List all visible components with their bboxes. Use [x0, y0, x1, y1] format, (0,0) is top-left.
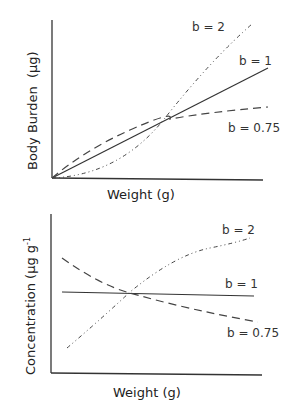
concentration-chart: b = 2 b = 1 b = 0.75 Weight (g) Concentr…: [23, 214, 279, 400]
label-b1: b = 1: [225, 277, 258, 291]
x-axis-label: Weight (g): [107, 187, 175, 202]
x-axis-label: Weight (g): [113, 385, 181, 400]
y-axis-label: Concentration (µg g-1: [23, 237, 38, 375]
line-b1: [62, 292, 254, 296]
label-b075: b = 0.75: [228, 121, 280, 135]
line-b075: [52, 107, 268, 178]
body-burden-chart: b = 2 b = 1 b = 0.75 Weight (g) Body Bur…: [25, 20, 280, 202]
y-axis-label: Body Burden (µg): [25, 51, 40, 170]
label-b075: b = 0.75: [227, 326, 279, 340]
figure: b = 2 b = 1 b = 0.75 Weight (g) Body Bur…: [0, 0, 286, 420]
label-b2: b = 2: [222, 223, 255, 237]
label-b2: b = 2: [192, 20, 225, 34]
x-axis: [52, 178, 263, 180]
x-axis: [51, 373, 262, 375]
line-b2: [52, 24, 252, 178]
label-b1: b = 1: [239, 54, 272, 68]
